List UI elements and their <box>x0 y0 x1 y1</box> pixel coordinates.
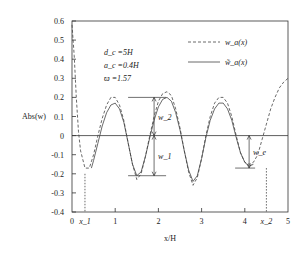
x-tick-label: 4 <box>243 217 247 226</box>
y-tick-label: -0.2 <box>51 170 64 179</box>
param-a: a_c =0.4H <box>104 61 140 70</box>
parameter-block: d_c =5H a_c =0.4H ϖ =1.57 <box>104 48 140 83</box>
dim-label-w_2: w_2 <box>158 113 171 122</box>
y-tick-label: -0.3 <box>51 189 64 198</box>
x-axis-title: x/H <box>164 234 176 243</box>
series-line-solid <box>91 97 253 181</box>
legend: w_a(x) w̃_a(x) <box>188 38 248 67</box>
param-d: d_c =5H <box>104 48 134 57</box>
axis-ticks: -0.4-0.3-0.2-0.100.10.20.30.40.50.601234… <box>51 17 290 226</box>
annotations-group: w_1w_2w_ex_1x_2 <box>78 97 272 226</box>
chart: -0.4-0.3-0.2-0.100.10.20.30.40.50.601234… <box>0 0 304 256</box>
x-tick-label: 1 <box>113 217 117 226</box>
dim-label-w_1: w_1 <box>158 152 171 161</box>
y-tick-label: 0.1 <box>54 113 64 122</box>
y-tick-label: 0.3 <box>54 74 64 83</box>
x-tick-label: 2 <box>156 217 160 226</box>
y-tick-label: 0.5 <box>54 36 64 45</box>
y-tick-label: 0 <box>60 132 64 141</box>
y-tick-label: 0.4 <box>54 55 64 64</box>
param-omega: ϖ =1.57 <box>104 74 132 83</box>
legend-label-dashed: w_a(x) <box>225 38 248 47</box>
marker-label-x_2: x_2 <box>260 217 273 226</box>
x-tick-label: 3 <box>200 217 204 226</box>
y-axis-title: Abs(w) <box>22 112 46 121</box>
y-tick-label: 0.2 <box>54 93 64 102</box>
marker-label-x_1: x_1 <box>78 217 91 226</box>
y-tick-label: -0.1 <box>51 151 64 160</box>
dim-label-w_e: w_e <box>253 148 266 157</box>
legend-label-solid: w̃_a(x) <box>225 58 248 67</box>
x-tick-label: 5 <box>286 217 290 226</box>
y-tick-label: -0.4 <box>51 208 64 217</box>
y-tick-label: 0.6 <box>54 17 64 26</box>
x-tick-label: 0 <box>70 217 74 226</box>
